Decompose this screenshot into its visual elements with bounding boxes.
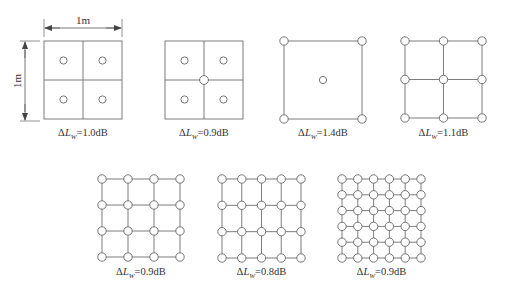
measurement-point-icon: [417, 254, 425, 262]
measurement-point-icon: [176, 253, 184, 261]
width-dimension: 1m: [44, 14, 122, 37]
measurement-point-icon: [354, 254, 362, 262]
measurement-point-icon: [277, 201, 285, 209]
measurement-point-icon: [60, 57, 67, 64]
delta-lw-label: ΔLW=1.0dB: [58, 127, 108, 141]
panel-p6: ΔLW=0.8dB: [218, 175, 305, 280]
measurement-point-icon: [401, 191, 409, 199]
measurement-point-icon: [385, 206, 393, 214]
measurement-point-icon: [297, 175, 305, 183]
measurement-point-icon: [98, 227, 106, 235]
height-dimension: 1m: [11, 41, 40, 121]
delta-value: =1.0dB: [77, 127, 108, 138]
delta-lw-label: ΔLW=1.1dB: [419, 127, 469, 141]
measurement-point-icon: [401, 222, 409, 230]
measurement-point-icon: [176, 175, 184, 183]
measurement-point-icon: [124, 227, 132, 235]
measurement-point-icon: [319, 76, 326, 83]
measurement-point-icon: [369, 175, 377, 183]
measurement-point-icon: [369, 238, 377, 246]
panels-group: ΔLW=1.0dBΔLW=0.9dBΔLW=1.4dBΔLW=1.1dBΔLW=…: [44, 37, 486, 280]
measurement-point-icon: [297, 201, 305, 209]
delta-value: =0.9dB: [198, 127, 229, 138]
measurement-point-icon: [257, 175, 265, 183]
measurement-point-icon: [338, 206, 346, 214]
measurement-point-icon: [369, 191, 377, 199]
measurement-point-icon: [277, 227, 285, 235]
measurement-grid-diagram: 1m 1m ΔLW=1.0dBΔLW=0.9dBΔLW=1.4dBΔLW=1.1…: [0, 0, 506, 294]
measurement-point-icon: [176, 201, 184, 209]
measurement-point-icon: [200, 76, 209, 85]
measurement-point-icon: [124, 201, 132, 209]
measurement-point-icon: [385, 222, 393, 230]
measurement-point-icon: [478, 75, 486, 83]
measurement-point-icon: [385, 254, 393, 262]
measurement-point-icon: [439, 37, 447, 45]
measurement-point-icon: [354, 175, 362, 183]
measurement-point-icon: [354, 238, 362, 246]
measurement-point-icon: [354, 206, 362, 214]
measurement-point-icon: [478, 114, 486, 122]
measurement-point-icon: [401, 114, 409, 122]
measurement-point-icon: [277, 254, 285, 262]
measurement-point-icon: [297, 254, 305, 262]
measurement-point-icon: [338, 222, 346, 230]
measurement-point-icon: [60, 96, 67, 103]
measurement-point-icon: [385, 238, 393, 246]
measurement-point-icon: [98, 201, 106, 209]
panel-p5: ΔLW=0.9dB: [98, 175, 184, 280]
delta-lw-label: ΔLW=0.9dB: [179, 127, 229, 141]
measurement-point-icon: [124, 175, 132, 183]
measurement-point-icon: [417, 206, 425, 214]
measurement-point-icon: [257, 227, 265, 235]
panel-border: [102, 179, 180, 257]
measurement-point-icon: [338, 175, 346, 183]
measurement-point-icon: [401, 37, 409, 45]
measurement-point-icon: [238, 201, 246, 209]
panel-p7: ΔLW=0.9dB: [338, 175, 425, 280]
measurement-point-icon: [277, 175, 285, 183]
measurement-point-icon: [150, 253, 158, 261]
measurement-point-icon: [417, 191, 425, 199]
measurement-point-icon: [401, 206, 409, 214]
measurement-point-icon: [238, 227, 246, 235]
measurement-point-icon: [478, 37, 486, 45]
measurement-point-icon: [338, 191, 346, 199]
panel-p1: ΔLW=1.0dB: [44, 41, 122, 141]
height-label: 1m: [11, 74, 23, 89]
delta-value: =1.4dB: [317, 127, 348, 138]
measurement-point-icon: [257, 254, 265, 262]
measurement-point-icon: [401, 75, 409, 83]
measurement-point-icon: [401, 175, 409, 183]
measurement-point-icon: [280, 115, 288, 123]
measurement-point-icon: [98, 253, 106, 261]
measurement-point-icon: [181, 57, 188, 64]
measurement-point-icon: [238, 175, 246, 183]
measurement-point-icon: [358, 115, 366, 123]
measurement-point-icon: [338, 238, 346, 246]
measurement-point-icon: [358, 37, 366, 45]
measurement-point-icon: [369, 254, 377, 262]
measurement-point-icon: [417, 222, 425, 230]
measurement-point-icon: [218, 227, 226, 235]
panel-p4: ΔLW=1.1dB: [401, 37, 486, 141]
delta-lw-label: ΔLW=0.9dB: [116, 266, 166, 280]
measurement-point-icon: [150, 201, 158, 209]
measurement-point-icon: [338, 254, 346, 262]
measurement-point-icon: [150, 227, 158, 235]
measurement-point-icon: [401, 238, 409, 246]
panel-p3: ΔLW=1.4dB: [280, 37, 366, 141]
measurement-point-icon: [354, 191, 362, 199]
delta-value: =0.8dB: [255, 266, 286, 277]
delta-lw-label: ΔLW=0.8dB: [237, 266, 287, 280]
width-label: 1m: [76, 14, 91, 26]
delta-value: =1.1dB: [437, 127, 468, 138]
panel-p2: ΔLW=0.9dB: [165, 41, 243, 141]
measurement-point-icon: [218, 254, 226, 262]
measurement-point-icon: [439, 75, 447, 83]
measurement-point-icon: [98, 175, 106, 183]
measurement-point-icon: [417, 238, 425, 246]
measurement-point-icon: [220, 96, 227, 103]
delta-value: =0.9dB: [375, 266, 406, 277]
measurement-point-icon: [218, 175, 226, 183]
